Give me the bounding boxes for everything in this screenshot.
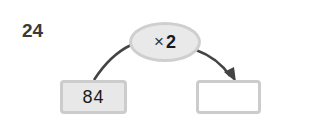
input-value: 84 (82, 87, 104, 108)
operation-oval: × 2 (129, 22, 201, 62)
multiply-sign: × (154, 32, 164, 52)
answer-box[interactable] (196, 80, 261, 114)
multiplier-value: 2 (166, 32, 176, 53)
input-box: 84 (60, 80, 127, 114)
connector-line (94, 45, 131, 80)
